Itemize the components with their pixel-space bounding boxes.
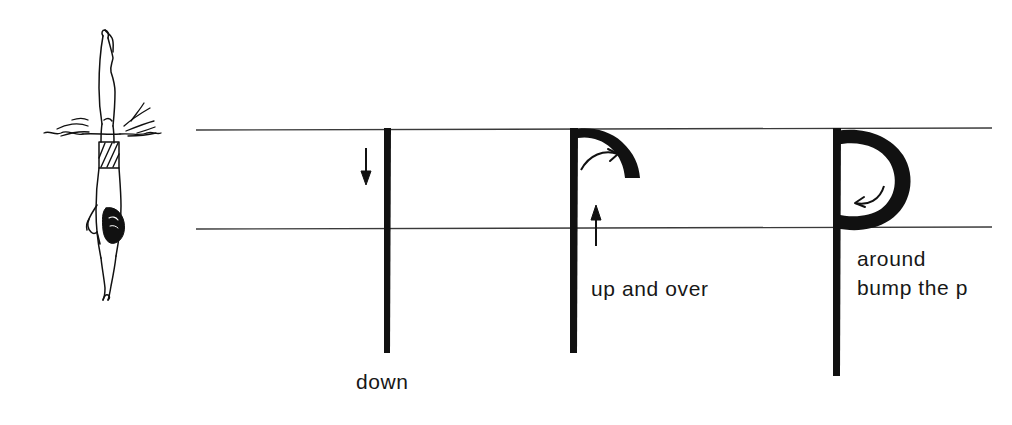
page-background: [0, 0, 1012, 425]
label-stroke-3-line-2: bump the p: [857, 276, 968, 299]
label-stroke-1: down: [356, 370, 409, 393]
stem-stroke-1: [384, 128, 391, 353]
letter-formation-worksheet: down up and over around bump the p: [0, 0, 1012, 425]
label-stroke-2: up and over: [591, 277, 709, 300]
stem-stroke-3: [833, 128, 841, 376]
label-stroke-3-line-1: around: [857, 247, 926, 270]
stem-stroke-2: [570, 128, 578, 353]
